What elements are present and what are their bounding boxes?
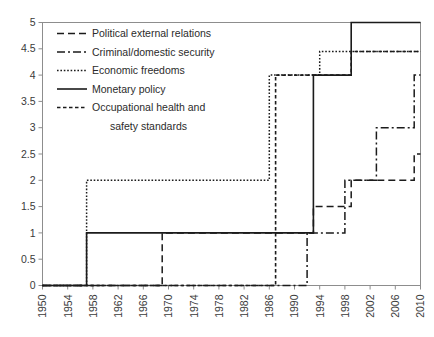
x-tick-label: 1998 <box>339 294 351 318</box>
x-tick-label: 1974 <box>188 294 200 318</box>
plot-area-border <box>43 23 421 286</box>
x-tick-label: 1990 <box>288 294 300 318</box>
y-tick-label: 0.5 <box>21 253 36 265</box>
step-line-chart: 00.511.522.533.544.55 195019541958196219… <box>0 0 434 337</box>
y-tick-label: 3.5 <box>21 95 36 107</box>
series-line <box>43 154 421 286</box>
y-tick-label: 3 <box>30 121 36 133</box>
x-tick-label: 2002 <box>364 294 376 318</box>
legend-label: Political external relations <box>92 27 211 39</box>
legend-label: Occupational health and <box>92 101 205 113</box>
legend-label: Criminal/domestic security <box>92 46 215 58</box>
x-axis: 1950195419581962196619701974197819821986… <box>36 286 426 318</box>
series-lines <box>43 23 421 286</box>
y-axis: 00.511.522.533.544.55 <box>21 16 43 291</box>
x-tick-label: 1994 <box>314 294 326 318</box>
y-tick-label: 0 <box>30 279 36 291</box>
x-tick-label: 1954 <box>62 294 74 318</box>
x-tick-label: 1950 <box>36 294 48 318</box>
x-tick-label: 1966 <box>137 294 149 318</box>
y-tick-label: 4.5 <box>21 42 36 54</box>
x-tick-label: 2010 <box>414 294 426 318</box>
y-tick-label: 5 <box>30 16 36 28</box>
y-tick-label: 2.5 <box>21 148 36 160</box>
chart-legend: Political external relationsCriminal/dom… <box>57 27 215 132</box>
series-line <box>43 23 421 286</box>
x-tick-label: 1958 <box>87 294 99 318</box>
x-tick-label: 1986 <box>263 294 275 318</box>
y-tick-label: 1 <box>30 227 36 239</box>
x-tick-label: 1978 <box>213 294 225 318</box>
legend-label: Monetary policy <box>92 83 166 95</box>
x-tick-label: 2006 <box>389 294 401 318</box>
legend-label: safety standards <box>110 120 187 132</box>
chart-container: 00.511.522.533.544.55 195019541958196219… <box>0 0 434 337</box>
plot-frame <box>43 23 421 286</box>
x-tick-label: 1970 <box>162 294 174 318</box>
y-tick-label: 1.5 <box>21 200 36 212</box>
y-tick-label: 4 <box>30 69 36 81</box>
x-tick-label: 1962 <box>112 294 124 318</box>
y-tick-label: 2 <box>30 174 36 186</box>
legend-label: Economic freedoms <box>92 64 185 76</box>
x-tick-label: 1982 <box>238 294 250 318</box>
